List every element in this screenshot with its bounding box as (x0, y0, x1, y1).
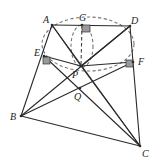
label-P: P (71, 69, 78, 80)
segment-PC (81, 66, 140, 146)
right-angle-mark-E (43, 57, 50, 64)
segment-AB (21, 25, 52, 116)
geometry-diagram: AGDEPFQBC (0, 0, 155, 165)
point-F (132, 61, 135, 64)
label-C: C (142, 148, 149, 159)
right-angle-mark-F (126, 60, 133, 67)
segment-AD (52, 25, 130, 26)
label-D: D (130, 15, 139, 26)
point-E (43, 55, 46, 58)
label-B: B (10, 111, 16, 122)
point-B (20, 115, 23, 118)
label-A: A (42, 14, 50, 25)
segment-BC (21, 116, 140, 146)
label-Q: Q (74, 91, 82, 102)
right-angle-mark-G (82, 25, 90, 32)
point-C (139, 145, 142, 148)
segment-EC (44, 56, 140, 146)
point-G (81, 24, 84, 27)
point-A (51, 24, 54, 27)
vertex-points (20, 24, 142, 148)
point-Q (79, 87, 82, 90)
label-G: G (79, 12, 86, 23)
label-E: E (33, 47, 40, 58)
line-segments (21, 25, 140, 146)
label-F: F (137, 56, 145, 67)
segment-DC (130, 26, 140, 146)
point-P (80, 65, 83, 68)
